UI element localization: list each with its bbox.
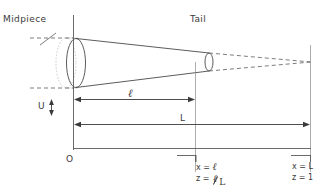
diagram-canvas [0, 0, 331, 192]
tick-L-z-row: z = 1 [292, 172, 313, 183]
tick-ell-x-value: ℓ [213, 161, 217, 172]
tick-ell-z-denominator: L [219, 177, 225, 187]
U-dimension-label: U [38, 101, 45, 111]
tick-ell-z-row: z = ℓL [196, 173, 222, 185]
midpiece-label: Midpiece [3, 14, 46, 24]
ell-dimension-line [74, 97, 195, 102]
tick-ell-z-fraction: ℓL [212, 173, 222, 185]
tick-L-x-value: L [309, 162, 313, 171]
U-dimension-arrow [49, 99, 54, 116]
midpiece-guide-lines [30, 38, 74, 88]
ell-dimension-label: ℓ [128, 87, 133, 100]
L-dimension-label: L [180, 113, 185, 123]
tick-L-z-prefix: z = [292, 173, 305, 182]
origin-label: O [66, 154, 73, 164]
tick-ell-x-row: x = ℓ [196, 161, 222, 173]
tick-annotation-L: x = L z = 1 [292, 161, 313, 183]
cone-extrapolation-dashed [209, 53, 311, 71]
tick-ell-x-prefix: x = [196, 163, 210, 172]
midpiece-leader-line [40, 33, 56, 45]
tick-L-x-prefix: x = [292, 162, 306, 171]
tick-L-x-row: x = L [292, 161, 313, 172]
tick-L-z-value: 1 [308, 173, 313, 182]
L-dimension-line [74, 122, 310, 127]
tail-cone-body [67, 39, 214, 88]
tail-label: Tail [190, 14, 206, 24]
midpiece-ghost-outline [56, 38, 78, 88]
tick-ell-z-prefix: z = [196, 174, 209, 183]
sperm-tail-cone-diagram: Midpiece Tail ℓ U L O x = ℓ z = ℓL x = L… [0, 0, 331, 192]
tick-annotation-ell: x = ℓ z = ℓL [196, 161, 222, 185]
